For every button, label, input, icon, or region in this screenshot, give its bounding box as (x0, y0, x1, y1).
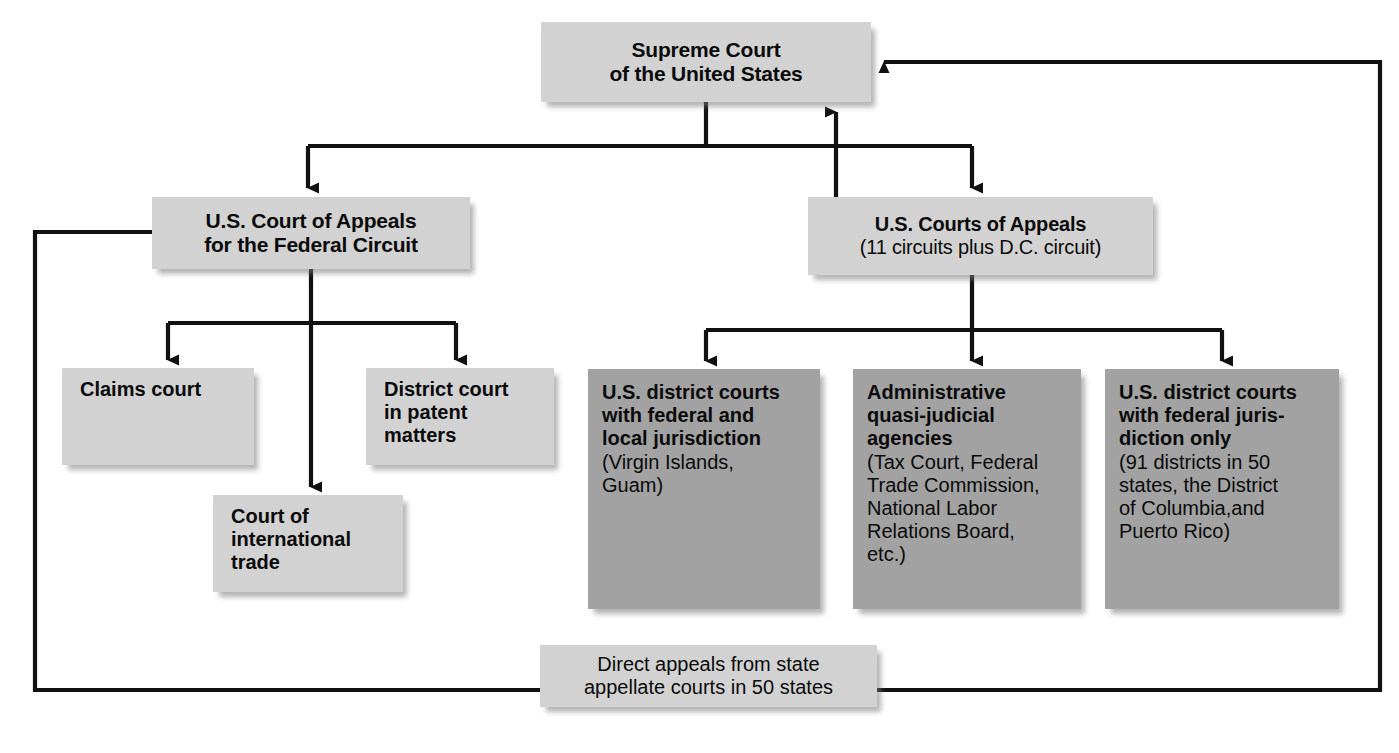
node-district-courts-federal-jurisdiction[interactable]: U.S. district courts with federal juris-… (1105, 369, 1339, 609)
node-court-international-trade-label: Court of international trade (231, 505, 403, 575)
node-supreme-court[interactable]: Supreme Court of the United States (541, 22, 871, 102)
node-direct-appeals-label: Direct appeals from state appellate cour… (584, 653, 833, 699)
node-administrative-agencies-label: Administrative quasi-judicial agencies (867, 381, 1081, 451)
node-district-courts-federal-jurisdiction-sublabel: (91 districts in 50 states, the District… (1119, 451, 1339, 544)
node-district-court-patent-label: District court in patent matters (384, 378, 554, 448)
node-supreme-court-label: Supreme Court of the United States (609, 38, 802, 87)
node-claims-court[interactable]: Claims court (62, 368, 254, 465)
node-court-international-trade[interactable]: Court of international trade (213, 495, 403, 592)
node-district-courts-local-jurisdiction-sublabel: (Virgin Islands, Guam) (602, 451, 820, 497)
node-courts-of-appeals-sublabel: (11 circuits plus D.C. circuit) (860, 236, 1101, 259)
node-claims-court-label: Claims court (80, 378, 254, 401)
node-direct-appeals[interactable]: Direct appeals from state appellate cour… (540, 645, 877, 707)
node-administrative-agencies[interactable]: Administrative quasi-judicial agencies (… (853, 369, 1081, 609)
node-courts-of-appeals[interactable]: U.S. Courts of Appeals (11 circuits plus… (808, 197, 1153, 275)
node-district-courts-local-jurisdiction-label: U.S. district courts with federal and lo… (602, 381, 820, 451)
node-district-court-patent[interactable]: District court in patent matters (366, 368, 554, 465)
node-district-courts-federal-jurisdiction-label: U.S. district courts with federal juris-… (1119, 381, 1339, 451)
court-system-diagram: Supreme Court of the United States U.S. … (0, 0, 1399, 753)
node-district-courts-local-jurisdiction[interactable]: U.S. district courts with federal and lo… (588, 369, 820, 609)
node-administrative-agencies-sublabel: (Tax Court, Federal Trade Commission, Na… (867, 451, 1081, 567)
node-courts-of-appeals-label: U.S. Courts of Appeals (875, 213, 1087, 236)
node-federal-circuit[interactable]: U.S. Court of Appeals for the Federal Ci… (152, 197, 470, 269)
node-federal-circuit-label: U.S. Court of Appeals for the Federal Ci… (204, 209, 418, 258)
